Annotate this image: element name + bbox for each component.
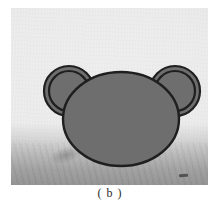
figure-container: ( b ) bbox=[0, 0, 220, 207]
bear-head-drawing bbox=[11, 8, 208, 185]
head-ellipse bbox=[63, 72, 179, 166]
figure-caption: ( b ) bbox=[0, 186, 220, 201]
photograph bbox=[11, 8, 208, 185]
